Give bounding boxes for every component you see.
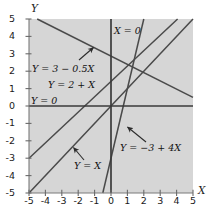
- y-axis-label: Y: [31, 3, 38, 14]
- y-tick-label: -2: [6, 136, 15, 146]
- y-tick-label: 5: [9, 14, 15, 24]
- x-tick-label: 5: [190, 196, 196, 206]
- x-tick-label: -1: [90, 196, 99, 206]
- equation-label-x-equals-0: X = 0: [114, 26, 141, 36]
- x-axis-label: X: [198, 185, 205, 196]
- y-tick-label: 3: [9, 49, 15, 59]
- x-tick-label: -3: [57, 196, 66, 206]
- y-tick-label: 0: [9, 101, 15, 111]
- y-tick-label: 1: [9, 84, 15, 94]
- y-tick-label: -1: [6, 119, 15, 129]
- line-chart-figure: Y X Y = 3 − 0.5X Y = 2 + X Y = 0 X = 0 Y…: [0, 0, 216, 218]
- x-tick-label: 1: [124, 196, 130, 206]
- y-tick-label: 4: [9, 32, 15, 42]
- equation-label-y-3-minus-half-x: Y = 3 − 0.5X: [32, 64, 94, 74]
- leader-arrow-y-3-minus-half-x: [79, 48, 94, 61]
- y-tick-label: 2: [9, 66, 15, 76]
- y-tick-label: -5: [6, 188, 15, 198]
- chart-vector-layer: [0, 0, 216, 218]
- x-tick-label: 2: [141, 196, 147, 206]
- x-tick-label: -2: [73, 196, 82, 206]
- x-tick-label: -5: [24, 196, 33, 206]
- leader-arrow-y-equals-x: [74, 148, 85, 161]
- equation-label-y-equals-x: Y = X: [74, 161, 101, 171]
- y-tick-label: -4: [6, 171, 15, 181]
- x-tick-label: 0: [108, 196, 114, 206]
- equation-label-y-equals-0: Y = 0: [31, 96, 57, 106]
- leader-arrow-y-minus3-plus-4x: [128, 127, 147, 142]
- y-tick-label: -3: [6, 153, 15, 163]
- x-tick-label: -4: [41, 196, 50, 206]
- equation-label-y-minus3-plus-4x: Y = −3 + 4X: [120, 143, 181, 153]
- x-tick-label: 3: [157, 196, 163, 206]
- equation-label-y-2-plus-x: Y = 2 + X: [48, 80, 95, 90]
- x-tick-label: 4: [174, 196, 180, 206]
